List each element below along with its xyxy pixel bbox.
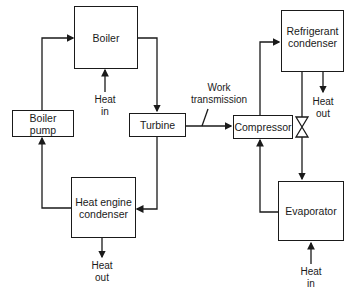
he-condenser-heat-out-label: Heat out <box>88 260 116 284</box>
heat-engine-condenser-box: Heat engine condenser <box>71 177 136 238</box>
evaporator-box: Evaporator <box>278 181 344 241</box>
boiler-heat-in-label: Heat in <box>91 94 119 118</box>
expansion-valve-icon <box>296 117 308 137</box>
ref-condenser-label-1: Refrigerant <box>287 25 339 37</box>
condenser-to-pump-line <box>42 138 71 208</box>
boiler-pump-label-1: Boiler <box>30 112 57 124</box>
turbine-box: Turbine <box>129 113 186 137</box>
compressor-to-ref-condenser-line <box>260 42 279 115</box>
he-condenser-label-2: condenser <box>79 208 128 220</box>
heat-text: Heat <box>91 94 119 106</box>
boiler-pump-box: Boiler pump <box>12 110 74 137</box>
compressor-label: Compressor <box>234 121 291 133</box>
ref-condenser-heat-out-label: Heat out <box>309 96 337 120</box>
out-text: out <box>88 272 116 284</box>
compressor-box: Compressor <box>233 115 293 139</box>
refrigerant-condenser-box: Refrigerant condenser <box>281 10 344 72</box>
boiler-to-turbine-line <box>137 38 157 111</box>
work-text: Work <box>181 82 257 94</box>
heat-text: Heat <box>309 96 337 108</box>
in-text: in <box>91 106 119 118</box>
turbine-label: Turbine <box>140 119 175 131</box>
heat-text: Heat <box>88 260 116 272</box>
pump-to-boiler-line <box>42 38 73 110</box>
he-condenser-label-1: Heat engine <box>75 196 132 208</box>
evaporator-to-compressor-line <box>260 140 278 212</box>
transmission-text: transmission <box>181 94 257 106</box>
evaporator-heat-in-label: Heat in <box>297 266 325 287</box>
boiler-pump-label-2: pump <box>30 124 56 136</box>
ref-condenser-label-2: condenser <box>288 37 337 49</box>
out-text: out <box>309 108 337 120</box>
boiler-label: Boiler <box>93 32 120 44</box>
evaporator-label: Evaporator <box>285 205 336 217</box>
work-transmission-label: Work transmission <box>181 82 257 106</box>
turbine-to-condenser-line <box>137 136 157 209</box>
in-text: in <box>297 278 325 287</box>
boiler-box: Boiler <box>74 6 138 69</box>
work-leader-line <box>202 109 208 126</box>
heat-text: Heat <box>297 266 325 278</box>
